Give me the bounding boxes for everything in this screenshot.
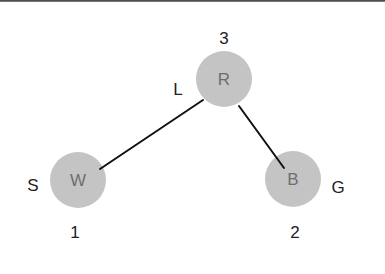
node-r-number: 3 <box>219 29 228 48</box>
edge-r-b <box>239 106 284 168</box>
node-r-side-label: L <box>173 80 182 99</box>
edge-r-w <box>100 100 203 169</box>
node-w-side-label: S <box>27 176 38 195</box>
node-r-letter: R <box>218 70 230 89</box>
node-w-number: 1 <box>70 223 79 242</box>
node-b-number: 2 <box>290 223 299 242</box>
tree-diagram: R W B 3 1 2 L S G <box>0 0 385 274</box>
node-w-letter: W <box>70 171 86 190</box>
node-b-side-label: G <box>331 178 344 197</box>
node-b-letter: B <box>287 170 298 189</box>
